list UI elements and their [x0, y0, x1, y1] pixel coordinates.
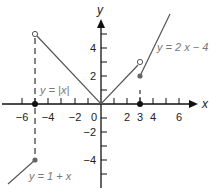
x-tick-label: 0	[91, 111, 97, 123]
y-tick-label: 4	[90, 42, 96, 54]
open-dot-icon	[32, 31, 37, 36]
x-tick-label: −4	[42, 111, 55, 123]
x-axis-label: x	[201, 97, 209, 111]
y-axis-arrow-icon	[97, 19, 105, 28]
closed-dot-icon	[137, 101, 143, 107]
label-2x-minus-4: y = 2 x − 4	[156, 41, 208, 53]
y-axis-label: y	[96, 3, 104, 17]
y-tick-label: −4	[83, 154, 96, 166]
y-tick-label: 2	[90, 70, 96, 82]
closed-dot-icon	[137, 73, 142, 78]
x-tick-label: −2	[69, 111, 82, 123]
x-axis-arrow-icon	[189, 100, 198, 108]
open-dot-icon	[137, 59, 142, 64]
x-tick-label: 4	[150, 111, 156, 123]
y-tick-label: −2	[83, 126, 96, 138]
x-tick-label: −6	[16, 111, 29, 123]
x-tick-label: 3	[137, 111, 143, 123]
piecewise-function-graph: −6 −4 −2 0 2 3 4 6 4 2 −2 −4 x y y = |x|…	[0, 0, 210, 193]
x-tick-label: 6	[176, 111, 182, 123]
closed-dot-icon	[32, 157, 37, 162]
x-tick-label: 2	[124, 111, 130, 123]
label-1-plus-x: y = 1 + x	[28, 170, 72, 182]
closed-dot-icon	[32, 101, 38, 107]
label-abs-x: y = |x|	[39, 84, 69, 96]
